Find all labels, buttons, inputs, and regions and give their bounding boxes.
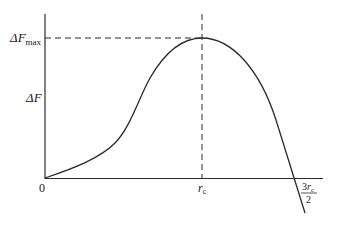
svg-text:3rc: 3rc [302,181,314,194]
delta-f-label: ΔF [25,90,43,105]
delta-f-curve [45,38,305,213]
energy-barrier-diagram: ΔFmax ΔF 0 rc 3rc 2 [0,0,338,227]
origin-label: 0 [39,181,45,195]
three-rc-over-two-label: 3rc 2 [301,181,317,205]
delta-f-max-label: ΔFmax [9,30,42,47]
rc-label: rc [198,181,207,196]
svg-text:2: 2 [306,194,311,205]
